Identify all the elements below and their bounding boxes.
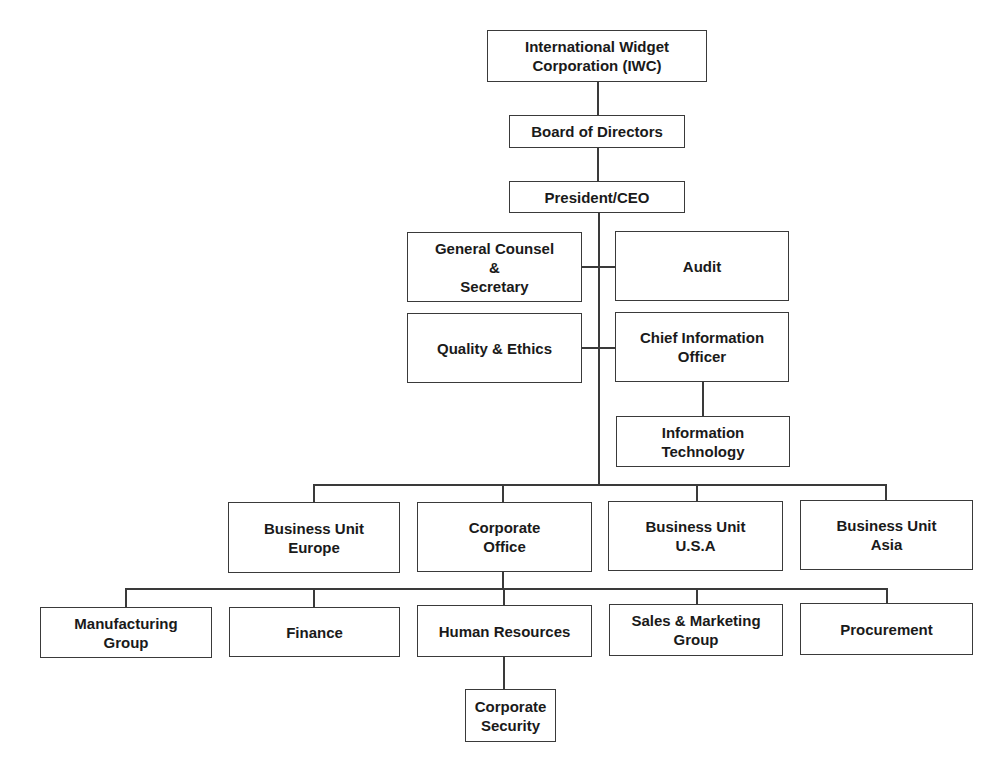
node-human-resources: Human Resources <box>417 605 592 657</box>
node-sales-marketing: Sales & Marketing Group <box>609 604 783 656</box>
node-quality-ethics: Quality & Ethics <box>407 313 582 383</box>
connector-bu-europe <box>313 484 315 502</box>
connector-dept-bus <box>125 588 887 590</box>
connector-corporate-down <box>502 572 504 588</box>
node-manufacturing-group: Manufacturing Group <box>40 607 212 658</box>
node-finance: Finance <box>229 607 400 657</box>
node-cio: Chief Information Officer <box>615 312 789 382</box>
node-iwc: International Widget Corporation (IWC) <box>487 30 707 82</box>
connector-hr <box>503 588 505 605</box>
connector-sales <box>696 588 698 604</box>
connector-bu-asia <box>885 484 887 500</box>
connector-bu-bus <box>313 484 887 486</box>
connector-cio-it <box>702 382 704 416</box>
connector-corporate-office <box>502 484 504 502</box>
connector-hr-security <box>503 657 505 689</box>
node-bu-usa: Business Unit U.S.A <box>608 501 783 571</box>
connector-iwc-board <box>597 82 599 115</box>
connector-counsel-audit <box>582 266 615 268</box>
node-bu-asia: Business Unit Asia <box>800 500 973 570</box>
connector-finance <box>313 588 315 607</box>
node-audit: Audit <box>615 231 789 301</box>
node-procurement: Procurement <box>800 603 973 655</box>
connector-procurement <box>886 588 888 603</box>
connector-board-president <box>597 148 599 181</box>
connector-bu-usa <box>696 484 698 501</box>
node-president-ceo: President/CEO <box>509 181 685 213</box>
connector-manufacturing <box>125 588 127 607</box>
node-corporate-office: Corporate Office <box>417 502 592 572</box>
node-information-technology: Information Technology <box>616 416 790 467</box>
connector-main-spine <box>598 213 600 485</box>
node-board-of-directors: Board of Directors <box>509 115 685 148</box>
node-bu-europe: Business Unit Europe <box>228 502 400 573</box>
node-general-counsel: General Counsel & Secretary <box>407 232 582 302</box>
node-corporate-security: Corporate Security <box>465 689 556 742</box>
connector-quality-cio <box>582 347 615 349</box>
